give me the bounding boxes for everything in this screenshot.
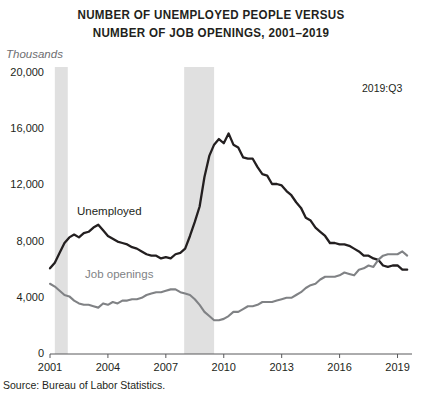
x-axis-tick-label-2001: 2001 <box>38 361 62 373</box>
series-line-unemployed <box>50 133 407 269</box>
x-axis-tick-label-2016: 2016 <box>327 361 351 373</box>
y-axis-tick-label-8000: 8,000 <box>0 235 44 247</box>
axis-layer <box>50 354 412 358</box>
x-axis-tick-label-2004: 2004 <box>96 361 120 373</box>
y-axis-tick-label-4000: 4,000 <box>0 291 44 303</box>
series-label-unemployed: Unemployed <box>77 205 142 217</box>
chart-container: NUMBER OF UNEMPLOYED PEOPLE VERSUS NUMBE… <box>0 0 422 398</box>
series-lines-layer <box>50 133 407 320</box>
source-note: Source: Bureau of Labor Statistics. <box>3 379 165 391</box>
x-axis-tick-label-2019: 2019 <box>385 361 409 373</box>
x-axis-tick-label-2007: 2007 <box>154 361 178 373</box>
y-axis-tick-label-12000: 12,000 <box>0 178 44 190</box>
y-axis-tick-label-0: 0 <box>0 347 44 359</box>
series-label-job-openings: Job openings <box>85 268 153 280</box>
x-axis-tick-label-2013: 2013 <box>269 361 293 373</box>
y-axis-tick-label-16000: 16,000 <box>0 122 44 134</box>
x-axis-tick-label-2010: 2010 <box>212 361 236 373</box>
y-axis-tick-label-20000: 20,000 <box>0 66 44 78</box>
recession-2001-band <box>55 67 68 354</box>
series-line-job-openings <box>50 251 407 320</box>
plot-area <box>0 0 422 398</box>
y-axis-tick-labels: 04,0008,00012,00016,00020,000 <box>0 0 44 398</box>
